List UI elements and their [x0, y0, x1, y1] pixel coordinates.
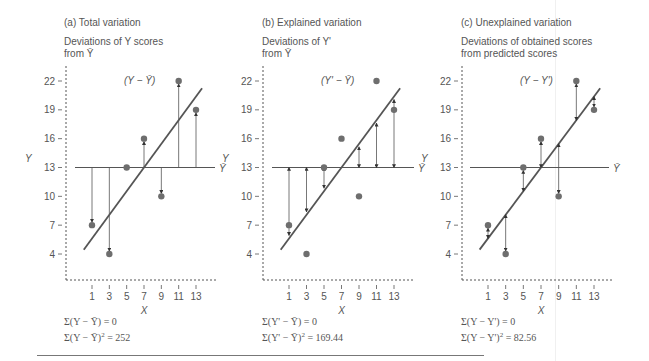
square-exponent: 2	[500, 331, 504, 339]
x-axis-label: X	[537, 305, 545, 316]
data-point	[502, 251, 508, 257]
mean-label: Ȳ	[613, 163, 621, 174]
data-point	[573, 78, 579, 84]
y-tick-label: 7	[445, 220, 451, 231]
deviation-label: (Y − Y')	[520, 75, 553, 86]
bottom-rule	[37, 355, 484, 356]
data-point	[485, 222, 491, 228]
data-point	[555, 193, 561, 199]
sum-squares-value: = 82.56	[506, 332, 537, 343]
x-tick-label: 7	[538, 291, 544, 302]
data-point	[538, 135, 544, 141]
y-axis-label: Y	[421, 153, 429, 164]
data-point	[591, 107, 597, 113]
x-tick-label: 9	[556, 291, 562, 302]
x-tick-label: 3	[503, 291, 509, 302]
x-tick-label: 5	[521, 291, 527, 302]
y-tick-label: 19	[440, 104, 452, 115]
panel-unexplained-variation: (c) Unexplained variationDeviations of o…	[0, 0, 210, 361]
y-tick-label: 4	[445, 249, 451, 260]
data-point	[520, 164, 526, 170]
x-tick-label: 1	[485, 291, 491, 302]
regression-line	[480, 88, 601, 249]
x-tick-label: 13	[588, 291, 600, 302]
sum-squares-expr: Σ(Y − Y')	[461, 332, 500, 343]
sum-squares: Σ(Y − Y')2 = 82.56	[461, 331, 536, 343]
scatter-plot: 471013161922Y135791113XȲ(Y − Y')	[0, 0, 649, 361]
y-tick-label: 16	[440, 133, 452, 144]
x-tick-label: 11	[571, 291, 582, 302]
y-tick-label: 10	[440, 191, 452, 202]
y-tick-label: 22	[440, 76, 452, 87]
sum-deviations: Σ(Y − Y') = 0	[461, 316, 515, 327]
y-tick-label: 13	[440, 162, 452, 173]
